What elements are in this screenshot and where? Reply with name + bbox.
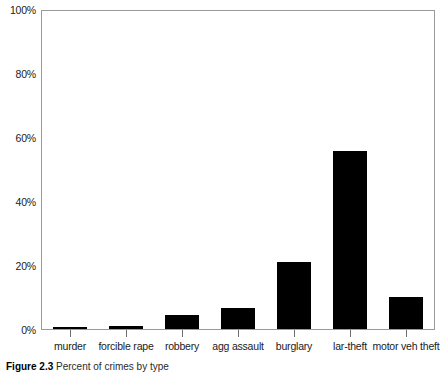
x-axis: murder forcible rape robbery agg assault… — [42, 340, 434, 356]
bar-motor-veh-theft — [389, 297, 423, 329]
x-tick-3 — [238, 330, 239, 337]
y-tick-label-60: 60% — [0, 133, 36, 144]
bar-murder — [53, 327, 87, 329]
bars-layer — [42, 11, 434, 329]
y-tick-label-80: 80% — [0, 69, 36, 80]
bar-slot-murder — [42, 11, 98, 329]
y-tick-label-20: 20% — [0, 261, 36, 272]
x-tick-label-burglary: burglary — [276, 340, 312, 353]
bar-slot-forcible-rape — [98, 11, 154, 329]
bar-lar-theft — [333, 151, 367, 329]
x-tick-1 — [126, 330, 127, 337]
y-axis: 100% 80% 60% 40% 20% 0% — [0, 0, 36, 374]
x-tick-label-robbery: robbery — [165, 340, 199, 353]
bar-slot-agg-assault — [210, 11, 266, 329]
y-tick-label-40: 40% — [0, 197, 36, 208]
bar-chart-figure: 100% 80% 60% 40% 20% 0% murder forcible … — [0, 0, 445, 374]
x-axis-ticks — [42, 330, 434, 337]
bar-slot-motor-veh-theft — [378, 11, 434, 329]
figure-caption-label: Figure 2.3 — [6, 361, 53, 372]
y-tick-label-100: 100% — [0, 5, 36, 16]
bar-slot-burglary — [266, 11, 322, 329]
x-tick-label-murder: murder — [54, 340, 86, 353]
x-tick-label-forcible-rape: forcible rape — [98, 340, 153, 353]
bar-agg-assault — [221, 308, 255, 329]
x-tick-label-motor-veh-theft: motor veh theft — [372, 340, 439, 353]
bar-burglary — [277, 262, 311, 329]
figure-caption-text: Percent of crimes by type — [56, 361, 169, 372]
x-tick-2 — [182, 330, 183, 337]
x-tick-label-agg-assault: agg assault — [212, 340, 264, 353]
bar-robbery — [165, 315, 199, 329]
x-tick-4 — [294, 330, 295, 337]
figure-caption: Figure 2.3 Percent of crimes by type — [6, 361, 445, 374]
x-tick-label-lar-theft: lar-theft — [333, 340, 367, 353]
x-tick-6 — [406, 330, 407, 337]
y-tick-label-0: 0% — [0, 325, 36, 336]
x-tick-5 — [350, 330, 351, 337]
bar-slot-lar-theft — [322, 11, 378, 329]
bar-slot-robbery — [154, 11, 210, 329]
bar-forcible-rape — [109, 326, 143, 329]
x-tick-0 — [70, 330, 71, 337]
